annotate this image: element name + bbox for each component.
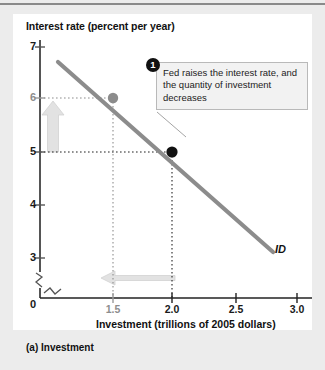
y-axis (35, 40, 45, 298)
callout-badge-1: 1 (146, 58, 160, 72)
callout-leader-line (157, 112, 186, 137)
x-axis-title: Investment (trillions of 2005 dollars) (96, 318, 276, 330)
investment-left-arrow (101, 271, 175, 285)
curve-label-id: ID (275, 243, 286, 255)
data-point-new (166, 146, 177, 157)
interest-rate-up-arrow (42, 101, 64, 152)
x-axis (40, 288, 312, 303)
x-tick-label-1-5: 1.5 (96, 303, 130, 315)
y-tick-label-3: 3 (20, 251, 36, 263)
figure-panel-a: Interest rate (percent per year) (0, 0, 325, 370)
figure-caption: (a) Investment (26, 342, 94, 353)
data-point-initial (108, 93, 118, 103)
x-tick-label-3-0: 3.0 (280, 303, 314, 315)
x-tick-label-2-0: 2.0 (155, 303, 189, 315)
callout-box: Fed raises the interest rate, and the qu… (156, 62, 308, 110)
y-tick-label-4: 4 (20, 198, 36, 210)
y-tick-label-7: 7 (20, 40, 36, 52)
x-tick-label-2-5: 2.5 (219, 303, 253, 315)
callout-text: Fed raises the interest rate, and the qu… (163, 67, 302, 104)
y-tick-label-6: 6 (20, 91, 36, 103)
y-tick-label-5: 5 (20, 145, 36, 157)
y-tick-label-0: 0 (20, 298, 36, 310)
